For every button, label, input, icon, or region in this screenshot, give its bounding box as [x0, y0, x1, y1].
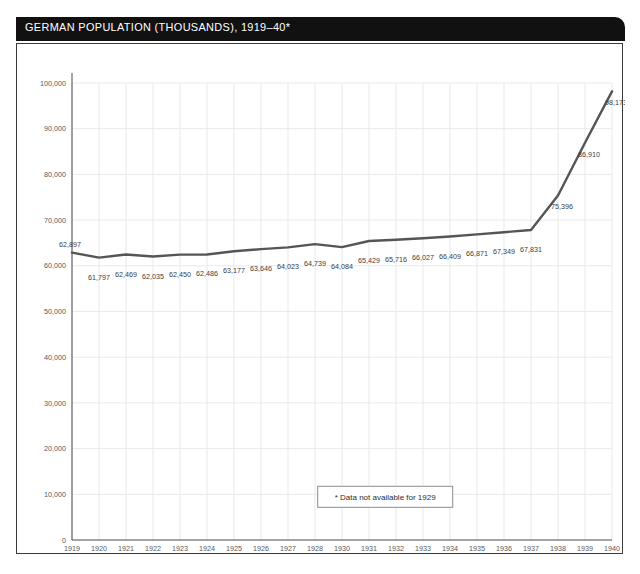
x-axis-tick-label: 1939 — [577, 544, 593, 553]
x-axis-tick-label: 1923 — [172, 544, 188, 553]
x-axis-tick-label: 1935 — [469, 544, 485, 553]
screenshot-root: GERMAN POPULATION (THOUSANDS), 1919–40* … — [0, 0, 640, 574]
data-point-label: 64,084 — [331, 262, 353, 271]
x-axis-tick-label: 1924 — [199, 544, 215, 553]
x-axis-tick-label: 1934 — [442, 544, 458, 553]
y-axis-tick-label: 60,000 — [44, 261, 66, 270]
x-axis-tick-label: 1940 — [604, 544, 620, 553]
x-axis-tick-label: 1936 — [496, 544, 512, 553]
data-point-label: 62,486 — [196, 269, 218, 278]
y-axis-tick-label: 10,000 — [44, 490, 66, 499]
data-point-label: 63,646 — [250, 264, 272, 273]
y-axis-tick-label: 20,000 — [44, 444, 66, 453]
y-axis-tick-label: 40,000 — [44, 353, 66, 362]
data-point-label: 66,871 — [466, 249, 488, 258]
data-point-label: 61,797 — [88, 273, 110, 282]
data-point-label: 63,177 — [223, 266, 245, 275]
data-point-label: 75,396 — [551, 202, 573, 211]
page-title: GERMAN POPULATION (THOUSANDS), 1919–40* — [25, 21, 290, 33]
line-chart: 010,00020,00030,00040,00050,00060,00070,… — [16, 43, 625, 556]
y-axis-tick-label: 100,000 — [40, 79, 66, 88]
data-point-label: 66,027 — [412, 253, 434, 262]
x-axis-tick-label: 1919 — [64, 544, 80, 553]
data-point-label: 66,409 — [439, 252, 461, 261]
x-axis-tick-label: 1922 — [145, 544, 161, 553]
data-point-label: 67,349 — [493, 247, 515, 256]
x-axis-tick-label: 1931 — [361, 544, 377, 553]
chart-card: GERMAN POPULATION (THOUSANDS), 1919–40* … — [16, 17, 625, 556]
x-axis-tick-label: 1938 — [550, 544, 566, 553]
data-point-label: 64,739 — [304, 259, 326, 268]
x-axis-tick-label: 1937 — [523, 544, 539, 553]
x-axis-tick-label: 1920 — [91, 544, 107, 553]
footnote-text: * Data not available for 1929 — [335, 493, 437, 502]
x-axis-tick-label: 1928 — [307, 544, 323, 553]
x-axis-tick-label: 1932 — [388, 544, 404, 553]
x-axis-tick-label: 1921 — [118, 544, 134, 553]
data-point-label: 65,716 — [385, 255, 407, 264]
y-axis-tick-label: 90,000 — [44, 124, 66, 133]
data-point-label: 67,831 — [520, 245, 542, 254]
x-axis-tick-label: 1925 — [226, 544, 242, 553]
data-point-label: 62,469 — [115, 270, 137, 279]
y-axis-tick-label: 80,000 — [44, 170, 66, 179]
x-axis-tick-label: 1933 — [415, 544, 431, 553]
y-axis-tick-label: 50,000 — [44, 307, 66, 316]
data-point-label: 65,429 — [358, 256, 380, 265]
data-point-label: 98,173 — [605, 98, 625, 107]
data-point-label: 62,450 — [169, 270, 191, 279]
x-axis-tick-label: 1927 — [280, 544, 296, 553]
chart-title-bar: GERMAN POPULATION (THOUSANDS), 1919–40* — [16, 17, 625, 41]
y-axis-tick-label: 30,000 — [44, 399, 66, 408]
x-axis-tick-label: 1926 — [253, 544, 269, 553]
data-point-label: 62,035 — [142, 272, 164, 281]
x-axis-tick-label: 1930 — [334, 544, 350, 553]
data-point-label: 64,023 — [277, 262, 299, 271]
data-point-label: 86,910 — [578, 150, 600, 159]
data-point-label: 62,897 — [59, 240, 81, 249]
y-axis-tick-label: 70,000 — [44, 216, 66, 225]
